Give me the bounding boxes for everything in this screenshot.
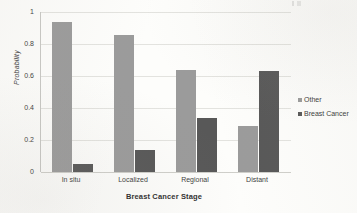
legend-entry-breast-cancer: Breast Cancer <box>298 110 349 117</box>
bar-distant-other <box>238 126 258 172</box>
bar-localized-other <box>114 35 134 172</box>
x-tick-label-localized: Localized <box>107 176 159 183</box>
bar-regional-breast-cancer <box>197 118 217 172</box>
bar-group-localized <box>108 12 160 172</box>
bar-in-situ-breast-cancer <box>73 164 93 172</box>
x-axis-title: Breast Cancer Stage <box>40 192 288 201</box>
x-axis-tick-labels: In situ Localized Regional Distant <box>40 176 288 183</box>
bar-group-distant <box>232 12 284 172</box>
y-tick-label: 0 <box>18 168 34 175</box>
y-tick-label: 0.2 <box>18 136 34 143</box>
y-tick-label: 0.8 <box>18 40 34 47</box>
bar-chart: Probability 1 0.8 0.6 0.4 0.2 0 <box>0 0 357 213</box>
bar-in-situ-other <box>52 22 72 172</box>
bars-layer <box>41 12 289 172</box>
bar-group-in-situ <box>46 12 98 172</box>
scan-artifact <box>292 1 306 6</box>
y-tick-label: 0.4 <box>18 104 34 111</box>
x-tick-label-in-situ: In situ <box>45 176 97 183</box>
bar-distant-breast-cancer <box>259 71 279 172</box>
plot-area <box>40 12 289 172</box>
x-tick-label-distant: Distant <box>231 176 283 183</box>
legend-label: Other <box>304 96 322 103</box>
legend-label: Breast Cancer <box>304 110 349 117</box>
y-tick-label: 0.6 <box>18 72 34 79</box>
legend-swatch-icon <box>298 98 302 102</box>
x-tick-label-regional: Regional <box>169 176 221 183</box>
bar-localized-breast-cancer <box>135 150 155 172</box>
bar-regional-other <box>176 70 196 172</box>
legend-entry-other: Other <box>298 96 349 103</box>
y-axis-tick-labels: 1 0.8 0.6 0.4 0.2 0 <box>18 0 34 213</box>
bar-group-regional <box>170 12 222 172</box>
y-tick-label: 1 <box>18 8 34 15</box>
chart-legend: Other Breast Cancer <box>298 96 349 117</box>
legend-swatch-icon <box>298 112 302 116</box>
gridline-baseline <box>41 172 291 173</box>
